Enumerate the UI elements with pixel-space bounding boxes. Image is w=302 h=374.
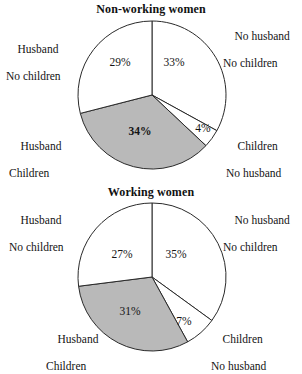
label-nohusband-line2: No children [223, 57, 290, 71]
slice-value-7: 7% [176, 315, 191, 327]
label-childrennohusband-line2: No husband [211, 360, 266, 374]
slice-value-29: 29% [109, 56, 130, 68]
label-no-husband-no-children-top: No husband No children [223, 16, 290, 97]
label-husbandchildren-line1: Husband [58, 333, 99, 345]
slice-value-35: 35% [165, 248, 186, 260]
chart-non-working-women: Non-working women Husband No children Hu… [0, 0, 302, 184]
pie-slices-group [78, 203, 226, 351]
label-husband-no-children-bottom: Husband No children [9, 200, 64, 281]
slice-value-27: 27% [111, 248, 132, 260]
label-husbandchildren-line2: Children [9, 167, 61, 181]
slice-value-4: 4% [195, 122, 210, 134]
label-husband-children-bottom: Husband Children [46, 319, 98, 374]
label-childrennohusband-line2: No husband [226, 167, 281, 181]
label-nohusband-line2: No children [223, 241, 290, 255]
label-husband-no-children-top: Husband No children Husband No children [6, 16, 61, 111]
label-childrennohusband-line1: Children [238, 140, 278, 152]
label-husband-line2: No children [9, 241, 64, 255]
label-husbandchildren-line1: Husband [21, 140, 62, 152]
label-children-no-husband-bottom: Children No husband [211, 319, 266, 374]
chart-working-women: Working women Husband No children No hus… [0, 184, 302, 368]
label-no-husband-no-children-bottom: No husband No children [223, 200, 290, 281]
label-husband-line2: No children [6, 70, 61, 84]
label-husband-line1: Husband [18, 43, 59, 55]
slice-value-33: 33% [163, 56, 184, 68]
slice-value-34: 34% [129, 125, 152, 137]
label-nohusband-line1: No husband [235, 214, 290, 226]
label-nohusband-line1: No husband [235, 30, 290, 42]
pie-slices-group [78, 21, 226, 169]
label-childrennohusband-line1: Children [223, 333, 263, 345]
label-husband-line1: Husband [21, 214, 62, 226]
slice-value-31: 31% [119, 305, 140, 317]
pie-slice-27% [78, 203, 152, 286]
label-husbandchildren-line2: Children [46, 360, 98, 374]
